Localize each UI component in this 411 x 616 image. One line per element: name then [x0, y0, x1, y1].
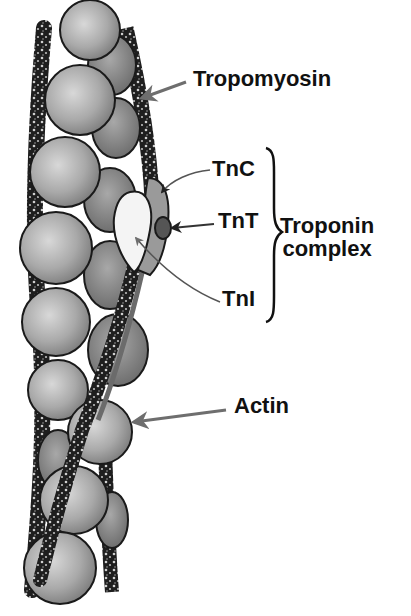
tnt-arrow — [172, 224, 214, 228]
tnc-label: TnC — [212, 157, 255, 180]
tnt-label: TnT — [218, 209, 258, 232]
troponin-complex-line1: Troponin — [280, 214, 374, 237]
tnt-subunit — [155, 217, 171, 239]
actin-label: Actin — [234, 394, 289, 417]
tropomyosin-label: Tropomyosin — [193, 67, 331, 90]
actin-arrow — [134, 410, 226, 422]
troponin-complex-label: Troponin complex — [280, 214, 374, 260]
thin-filament-diagram — [0, 0, 411, 616]
troponin-complex-line2: complex — [280, 237, 374, 260]
tnc-arrow — [162, 170, 210, 192]
tropomyosin-arrow — [142, 82, 186, 98]
tni-label: TnI — [222, 287, 255, 310]
